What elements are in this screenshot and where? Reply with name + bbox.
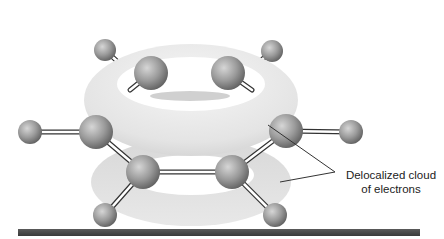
atom-h-top-right <box>261 40 283 62</box>
atom-h-bottom-left <box>93 203 117 227</box>
label-line-2: of electrons <box>336 182 444 196</box>
atom-h-top-left <box>94 39 116 61</box>
delocalized-cloud-label: Delocalized cloud of electrons <box>336 168 444 196</box>
atom-h-right <box>339 120 363 144</box>
floor-bar <box>18 229 420 236</box>
label-line-1: Delocalized cloud <box>336 168 444 182</box>
atom-c-back-left <box>134 56 168 90</box>
atom-c-front-right <box>215 155 249 189</box>
atom-h-left <box>18 120 42 144</box>
atom-c-right <box>269 114 303 148</box>
atom-c-back-right <box>211 56 245 90</box>
atom-c-left <box>79 115 113 149</box>
atom-h-bottom-right <box>263 203 287 227</box>
atom-c-front-left <box>126 155 160 189</box>
benzene-diagram <box>0 0 444 239</box>
upper-electron-cloud <box>84 44 298 156</box>
